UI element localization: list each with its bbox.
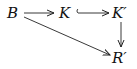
node-k-prime: K′ [112,6,127,21]
node-k: K [59,6,70,21]
arrow-b-to-rprime [24,17,110,55]
node-b: B [7,6,18,21]
node-r-prime: R′ [112,51,127,66]
hook-arrow-k-to-kprime [77,9,109,13]
